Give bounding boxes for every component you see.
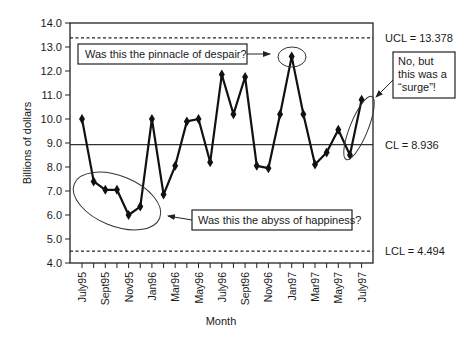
abyss-ellipse xyxy=(65,161,169,242)
y-tick-label: 12.0 xyxy=(41,65,62,77)
y-tick-label: 4.0 xyxy=(47,257,62,269)
diamond-marker-icon xyxy=(254,161,260,171)
y-axis-title: Billions of dollars xyxy=(21,101,33,184)
diamond-marker-icon xyxy=(149,114,155,124)
x-tick-label: Mar97 xyxy=(309,272,321,302)
diamond-marker-icon xyxy=(265,163,271,173)
x-axis: July95Sept95Nov95Jan96Mar96May96July96Se… xyxy=(76,263,368,305)
x-tick-label: May97 xyxy=(332,272,344,304)
cl-label: CL = 8.936 xyxy=(385,139,439,151)
x-tick-label: Mar96 xyxy=(169,272,181,302)
diamond-marker-icon xyxy=(300,109,306,119)
diamond-marker-icon xyxy=(137,202,143,212)
surge-arrow-icon xyxy=(376,80,393,97)
x-tick-label: July97 xyxy=(356,272,368,303)
x-tick-label: Jan96 xyxy=(146,272,158,301)
y-tick-label: 10.0 xyxy=(41,113,62,125)
surge-callout-text: “surge”! xyxy=(398,81,436,93)
x-tick-label: May96 xyxy=(193,272,205,304)
y-tick-label: 8.0 xyxy=(47,161,62,173)
y-tick-label: 9.0 xyxy=(47,137,62,149)
diamond-marker-icon xyxy=(289,52,295,62)
ucl-label: UCL = 13.378 xyxy=(385,32,453,44)
y-tick-label: 14.0 xyxy=(41,17,62,29)
y-tick-label: 13.0 xyxy=(41,41,62,53)
y-axis: 4.05.06.07.08.09.010.011.012.013.014.0 xyxy=(41,17,70,269)
x-tick-label: July95 xyxy=(76,272,88,303)
control-chart: 4.05.06.07.08.09.010.011.012.013.014.0 J… xyxy=(0,0,469,341)
diamond-marker-icon xyxy=(79,114,85,124)
x-tick-label: Sept95 xyxy=(99,272,111,305)
abyss-arrow-icon xyxy=(168,216,192,220)
y-tick-label: 11.0 xyxy=(41,89,62,101)
x-tick-label: Jan97 xyxy=(286,272,298,301)
diamond-marker-icon xyxy=(184,116,190,126)
surge-callout-text: No, but xyxy=(398,55,433,67)
x-tick-label: Nov96 xyxy=(262,272,274,303)
diamond-marker-icon xyxy=(102,185,108,195)
abyss-callout-text: Was this the abyss of happiness? xyxy=(198,214,361,226)
x-tick-label: July96 xyxy=(216,272,228,303)
y-tick-label: 6.0 xyxy=(47,209,62,221)
surge-ellipse xyxy=(338,93,380,163)
pinnacle-callout-text: Was this the pinnacle of despair? xyxy=(85,48,247,60)
x-tick-label: Nov95 xyxy=(123,272,135,303)
diamond-marker-icon xyxy=(207,157,213,167)
x-tick-label: Sept96 xyxy=(239,272,251,305)
y-tick-label: 5.0 xyxy=(47,233,62,245)
lcl-label: LCL = 4.494 xyxy=(385,245,445,257)
y-tick-label: 7.0 xyxy=(47,185,62,197)
diamond-marker-icon xyxy=(196,114,202,124)
diamond-marker-icon xyxy=(277,109,283,119)
diamond-marker-icon xyxy=(91,176,97,186)
series-line xyxy=(82,57,362,215)
surge-callout-text: this was a xyxy=(398,68,448,80)
x-axis-title: Month xyxy=(206,315,237,327)
data-series xyxy=(79,52,365,220)
